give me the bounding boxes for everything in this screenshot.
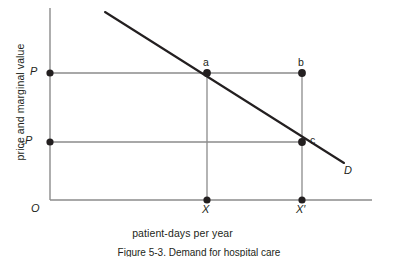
label-price-sP: sP: [21, 134, 32, 146]
label-price-sP-main: P: [25, 134, 32, 146]
marker-price-sP: [46, 138, 53, 145]
marker-price-P: [46, 69, 53, 76]
marker-point-c: [298, 138, 306, 146]
x-axis-title: patient-days per year: [50, 227, 315, 239]
label-point-a: a: [203, 56, 209, 68]
label-point-c: c: [310, 134, 315, 146]
label-quantity-Xprime: X′: [296, 203, 305, 215]
label-price-sP-prefix: s: [21, 138, 25, 147]
label-point-b: b: [298, 56, 304, 68]
label-price-P: P: [30, 65, 37, 77]
label-origin: O: [31, 202, 40, 214]
chart-canvas: [0, 0, 398, 257]
label-quantity-X: X: [202, 203, 209, 215]
label-demand-curve: D: [344, 164, 352, 176]
marker-point-a: [203, 69, 211, 77]
marker-point-b: [298, 69, 306, 77]
figure-caption: Figure 5-3. Demand for hospital care: [0, 246, 398, 257]
figure-container: price and marginal value patient-days pe…: [0, 0, 398, 257]
demand-curve-line: [105, 12, 344, 163]
y-axis-title: price and marginal value: [14, 27, 26, 177]
